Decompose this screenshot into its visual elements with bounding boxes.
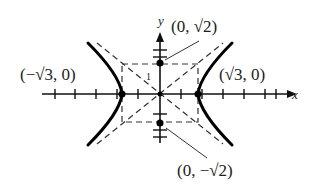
left-vertex-label: (−√3, 0) — [20, 65, 76, 84]
tick-label-1: 1 — [146, 71, 151, 82]
y-axis-label: y — [156, 13, 164, 28]
right-vertex-dot — [195, 91, 202, 98]
origin-dot — [158, 92, 163, 97]
right-vertex-label: (√3, 0) — [219, 65, 265, 84]
bottom-point-label: (0, −√2) — [177, 161, 233, 180]
x-axis-label: x — [291, 87, 298, 102]
leader-lines — [165, 41, 207, 158]
bottom-point-dot — [157, 120, 164, 127]
x-axis — [42, 89, 297, 99]
top-point-dot — [157, 60, 164, 67]
hyperbola-diagram: y x 1 (−√3, 0) (√3, 0) (0, √2) (0, −√2) — [0, 0, 315, 190]
top-point-label: (0, √2) — [171, 17, 217, 36]
left-vertex-dot — [119, 91, 126, 98]
